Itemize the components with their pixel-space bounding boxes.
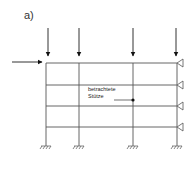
support-triangle-4 xyxy=(177,123,183,131)
ground-icon-2 xyxy=(73,146,84,149)
columns xyxy=(46,63,177,146)
annotation-line2: Stütze xyxy=(88,93,116,100)
right-supports xyxy=(177,59,183,131)
vertical-load-arrows xyxy=(48,28,176,56)
ground-icon-3 xyxy=(127,146,138,149)
support-triangle-1 xyxy=(177,59,183,67)
considered-column-dot xyxy=(131,98,134,101)
annotation-label: betrachtete Stütze xyxy=(88,86,116,100)
ground-icon-1 xyxy=(40,146,51,149)
frame-diagram xyxy=(0,0,194,169)
annotation-line1: betrachtete xyxy=(88,86,116,93)
support-triangle-3 xyxy=(177,102,183,110)
ground-supports xyxy=(40,146,182,149)
ground-icon-4 xyxy=(171,146,182,149)
support-triangle-2 xyxy=(177,81,183,89)
